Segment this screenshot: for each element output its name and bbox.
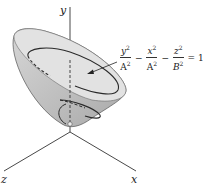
equation: y2 A2 − x2 A2 − z2 B2 = 1 bbox=[118, 42, 206, 73]
vertex-point bbox=[68, 122, 72, 126]
fraction-y: y2 A2 bbox=[120, 42, 131, 73]
hyperboloid-figure: y z x bbox=[0, 0, 213, 187]
equals-one: = 1 bbox=[188, 53, 204, 63]
minus-sign: − bbox=[135, 53, 143, 63]
z-axis-label: z bbox=[0, 173, 7, 186]
x-axis bbox=[70, 132, 136, 171]
y-axis-label: y bbox=[59, 4, 67, 17]
z-axis bbox=[4, 132, 70, 171]
x-axis-label: x bbox=[131, 173, 138, 186]
fraction-z: z2 B2 bbox=[173, 42, 184, 73]
minus-sign: − bbox=[161, 53, 169, 63]
fraction-x: x2 A2 bbox=[146, 42, 157, 73]
